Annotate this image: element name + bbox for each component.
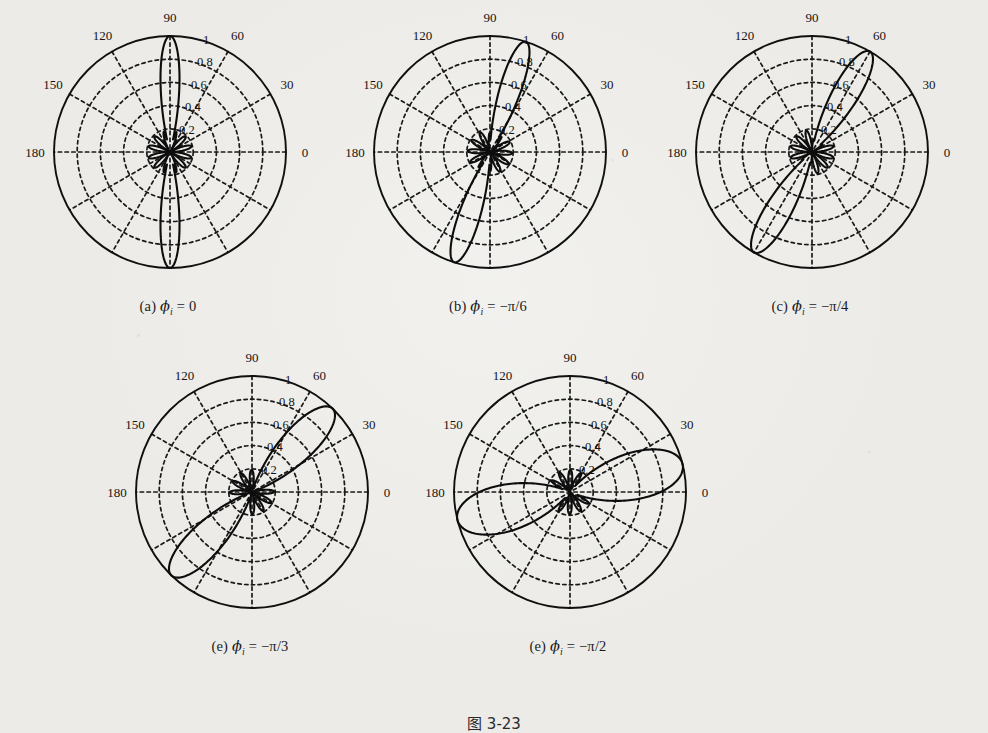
angle-tick-60: 60 bbox=[231, 28, 244, 43]
radial-tick-0.4: 0.4 bbox=[185, 100, 201, 114]
angle-tick-90: 90 bbox=[484, 10, 497, 25]
panel-caption-a: (a) ϕi = 0 bbox=[18, 298, 318, 317]
panel-caption-c: (c) ϕi = −π/4 bbox=[660, 298, 960, 317]
angle-tick-180: 180 bbox=[345, 145, 365, 160]
angle-tick-0: 0 bbox=[702, 485, 709, 500]
polar-panel-b: 03060901201501800.20.40.60.81 bbox=[338, 8, 638, 296]
radial-tick-0.6: 0.6 bbox=[591, 418, 607, 432]
angle-tick-180: 180 bbox=[107, 485, 127, 500]
angle-tick-120: 120 bbox=[735, 28, 755, 43]
polar-panel-c: 03060901201501800.20.40.60.81 bbox=[660, 8, 960, 296]
caption-phi-value: = 0 bbox=[173, 298, 196, 314]
angle-tick-0: 0 bbox=[384, 485, 391, 500]
angle-tick-30: 30 bbox=[680, 417, 693, 432]
radial-tick-0.4: 0.4 bbox=[827, 100, 843, 114]
radial-tick-1: 1 bbox=[603, 373, 609, 387]
panel-caption-e: (e) ϕi = −π/2 bbox=[418, 638, 718, 657]
radial-tick-0.4: 0.4 bbox=[585, 440, 601, 454]
angle-tick-30: 30 bbox=[600, 77, 613, 92]
radial-tick-0.8: 0.8 bbox=[517, 55, 533, 69]
angle-tick-60: 60 bbox=[873, 28, 886, 43]
radial-tick-1: 1 bbox=[203, 33, 209, 47]
angle-tick-0: 0 bbox=[302, 145, 309, 160]
angle-tick-60: 60 bbox=[313, 368, 326, 383]
polar-panel-a: 03060901201501800.20.40.60.81 bbox=[18, 8, 318, 296]
caption-phi-symbol: ϕ bbox=[232, 638, 242, 654]
caption-phi-value: = −π/2 bbox=[563, 638, 607, 654]
polar-axes: 03060901201501800.20.40.60.81 bbox=[100, 348, 400, 636]
caption-phi-symbol: ϕ bbox=[470, 298, 480, 314]
radial-tick-0.6: 0.6 bbox=[273, 418, 289, 432]
angle-tick-120: 120 bbox=[413, 28, 433, 43]
angle-tick-30: 30 bbox=[922, 77, 935, 92]
polar-axes: 03060901201501800.20.40.60.81 bbox=[660, 8, 960, 296]
radial-tick-1: 1 bbox=[285, 373, 291, 387]
caption-phi-value: = −π/6 bbox=[483, 298, 527, 314]
caption-phi-symbol: ϕ bbox=[792, 298, 802, 314]
angle-tick-30: 30 bbox=[362, 417, 375, 432]
angle-tick-90: 90 bbox=[246, 350, 259, 365]
angle-tick-90: 90 bbox=[164, 10, 177, 25]
angle-tick-150: 150 bbox=[363, 77, 383, 92]
caption-phi-symbol: ϕ bbox=[550, 638, 560, 654]
radial-tick-0.6: 0.6 bbox=[191, 78, 207, 92]
radial-tick-0.8: 0.8 bbox=[597, 395, 613, 409]
polar-panel-d: 03060901201501800.20.40.60.81 bbox=[100, 348, 400, 636]
angle-tick-30: 30 bbox=[280, 77, 293, 92]
radial-tick-0.8: 0.8 bbox=[279, 395, 295, 409]
angle-tick-150: 150 bbox=[443, 417, 463, 432]
caption-phi-value: = −π/3 bbox=[245, 638, 289, 654]
figure-number: 图 3-23 bbox=[0, 712, 988, 733]
angle-tick-150: 150 bbox=[125, 417, 145, 432]
radial-tick-1: 1 bbox=[845, 33, 851, 47]
angle-tick-60: 60 bbox=[631, 368, 644, 383]
angle-tick-90: 90 bbox=[564, 350, 577, 365]
angle-tick-120: 120 bbox=[175, 368, 195, 383]
angle-tick-150: 150 bbox=[43, 77, 63, 92]
panel-caption-d: (e) ϕi = −π/3 bbox=[100, 638, 400, 657]
polar-panel-e: 03060901201501800.20.40.60.81 bbox=[418, 348, 718, 636]
caption-phi-symbol: ϕ bbox=[160, 298, 170, 314]
angle-tick-180: 180 bbox=[667, 145, 687, 160]
angle-tick-0: 0 bbox=[944, 145, 951, 160]
caption-index: (a) bbox=[139, 298, 160, 314]
angle-tick-180: 180 bbox=[25, 145, 45, 160]
polar-axes: 03060901201501800.20.40.60.81 bbox=[18, 8, 318, 296]
angle-tick-120: 120 bbox=[93, 28, 113, 43]
angle-tick-0: 0 bbox=[622, 145, 629, 160]
polar-axes: 03060901201501800.20.40.60.81 bbox=[418, 348, 718, 636]
caption-index: (e) bbox=[529, 638, 550, 654]
radial-tick-0.2: 0.2 bbox=[179, 123, 195, 137]
panel-caption-b: (b) ϕi = −π/6 bbox=[338, 298, 638, 317]
angle-tick-150: 150 bbox=[685, 77, 705, 92]
radial-tick-0.8: 0.8 bbox=[197, 55, 213, 69]
polar-axes: 03060901201501800.20.40.60.81 bbox=[338, 8, 638, 296]
caption-index: (e) bbox=[211, 638, 232, 654]
caption-index: (b) bbox=[449, 298, 470, 314]
caption-phi-value: = −π/4 bbox=[805, 298, 849, 314]
angle-tick-90: 90 bbox=[806, 10, 819, 25]
angle-tick-60: 60 bbox=[551, 28, 564, 43]
caption-index: (c) bbox=[771, 298, 792, 314]
angle-tick-120: 120 bbox=[493, 368, 513, 383]
angle-tick-180: 180 bbox=[425, 485, 445, 500]
